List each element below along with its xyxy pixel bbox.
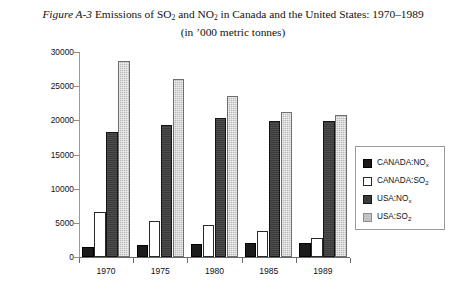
bar-usa-so2-1975	[173, 79, 185, 257]
y-axis-tick-mark	[74, 223, 80, 224]
legend-label-subscript: x	[408, 197, 411, 204]
bar-canada-so2-1970	[94, 212, 106, 257]
chart-plot-area: 050001000015000200002500030000 CANADA:NO…	[0, 42, 466, 295]
x-axis-tick-mark	[79, 258, 80, 263]
legend-label-subscript: 2	[408, 215, 411, 222]
canada-so2-swatch	[363, 177, 372, 186]
bar-usa-so2-1970	[118, 61, 130, 257]
bar-usa-nox-1975	[161, 125, 173, 257]
bar-canada-nox-1975	[137, 245, 149, 257]
title-text-b: and NO	[175, 8, 214, 20]
bar-canada-nox-1985	[245, 243, 257, 257]
bar-canada-so2-1980	[203, 225, 215, 257]
bar-usa-nox-1970	[106, 132, 118, 257]
legend-label-canada-so2: CANADA:SO2	[377, 176, 429, 186]
bar-canada-nox-1989	[299, 243, 311, 257]
bar-usa-so2-1980	[227, 96, 239, 257]
bar-usa-so2-1989	[335, 115, 347, 257]
legend-label-usa-nox: USA:NOx	[377, 194, 412, 204]
canada-nox-swatch	[363, 159, 372, 168]
bar-usa-nox-1989	[323, 121, 335, 257]
legend-label-subscript: x	[426, 161, 429, 168]
bar-canada-so2-1989	[311, 238, 323, 257]
x-axis-tick-label-1970: 1970	[76, 266, 136, 276]
x-axis-tick-label-1989: 1989	[293, 266, 353, 276]
title-text-c: in Canada and the United States: 1970–19…	[218, 8, 424, 20]
usa-nox-swatch	[363, 195, 372, 204]
bar-usa-nox-1985	[269, 121, 281, 257]
y-axis-tick-mark	[74, 52, 80, 53]
x-axis-tick-mark	[133, 258, 134, 263]
title-text-a: Emissions of SO	[92, 8, 171, 20]
bar-canada-so2-1975	[149, 221, 161, 257]
legend-item-usa-nox[interactable]: USA:NOx	[363, 190, 444, 208]
y-axis-tick-mark	[74, 189, 80, 190]
y-axis-tick-mark	[74, 120, 80, 121]
figure-number: Figure A-3	[42, 8, 92, 20]
bar-usa-nox-1980	[215, 118, 227, 257]
bar-canada-so2-1985	[257, 231, 269, 257]
x-axis-tick-mark	[242, 258, 243, 263]
usa-so2-swatch	[363, 213, 372, 222]
x-axis-tick-label-1985: 1985	[239, 266, 299, 276]
title-subtitle: (in ’000 metric tonnes)	[16, 25, 450, 39]
legend-item-canada-so2[interactable]: CANADA:SO2	[363, 172, 444, 190]
legend-item-usa-so2[interactable]: USA:SO2	[363, 208, 444, 226]
legend-item-canada-nox[interactable]: CANADA:NOx	[363, 154, 444, 172]
legend-label-canada-nox: CANADA:NOx	[377, 158, 429, 168]
x-axis-tick-mark	[187, 258, 188, 263]
bar-canada-nox-1980	[191, 244, 203, 257]
y-axis-tick-mark	[74, 155, 80, 156]
legend-label-subscript: 2	[425, 179, 428, 186]
bar-usa-so2-1985	[281, 112, 293, 257]
x-axis-tick-mark	[296, 258, 297, 263]
chart-legend: CANADA:NOxCANADA:SO2USA:NOxUSA:SO2	[355, 146, 445, 230]
x-axis-tick-label-1980: 1980	[185, 266, 245, 276]
x-axis-tick-label-1975: 1975	[130, 266, 190, 276]
x-axis-tick-mark	[350, 258, 351, 263]
figure-title: Figure A-3 Emissions of SO2 and NO2 in C…	[16, 7, 450, 39]
bar-canada-nox-1970	[82, 247, 94, 257]
y-axis-tick-mark	[74, 86, 80, 87]
legend-label-usa-so2: USA:SO2	[377, 212, 411, 222]
